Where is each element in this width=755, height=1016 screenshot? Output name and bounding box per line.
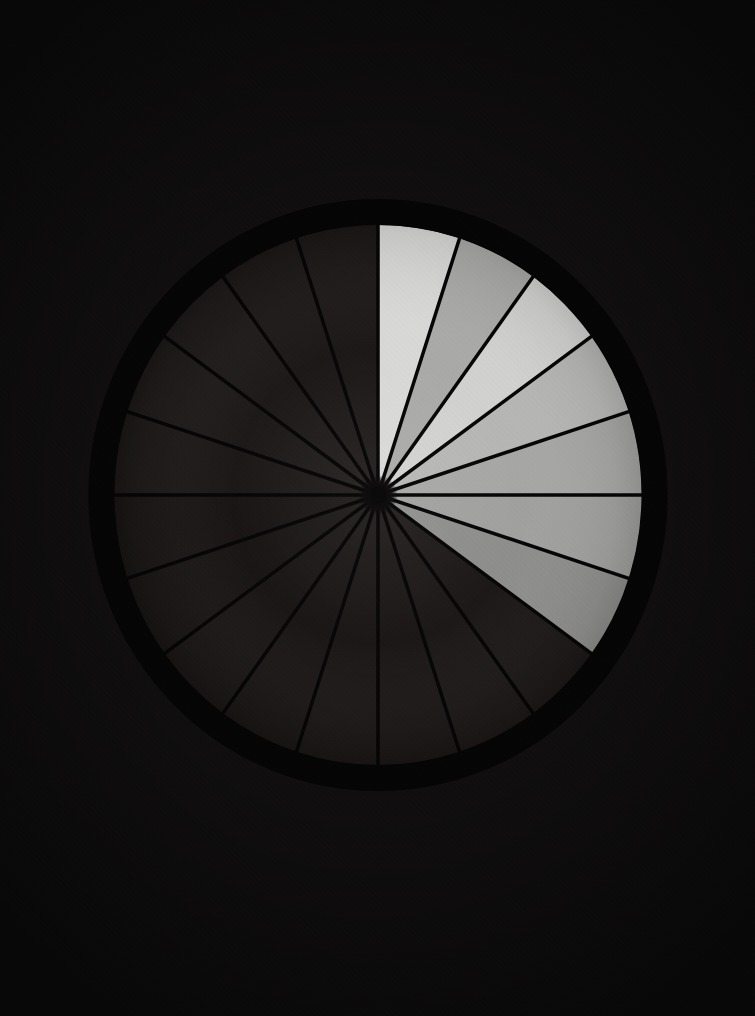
wheel-hub-core: [370, 487, 386, 503]
radial-wheel-chart: [0, 0, 755, 1016]
image-canvas: [0, 0, 755, 1016]
